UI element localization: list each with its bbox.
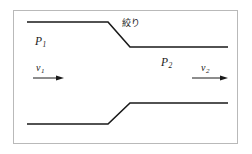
velocity-label-downstream-subscript: 2 — [206, 67, 210, 75]
pressure-label-downstream-subscript: 2 — [169, 61, 173, 70]
figure-root: P1 P2 v1 v2 絞り — [0, 0, 252, 154]
lower-pipe-wall — [27, 103, 228, 124]
pressure-label-upstream: P1 — [35, 36, 46, 48]
pressure-label-downstream: P2 — [161, 57, 172, 69]
throttle-label: 絞り — [122, 19, 140, 28]
pressure-label-upstream-subscript: 1 — [43, 40, 47, 49]
upstream-flow-arrow — [33, 76, 64, 81]
pressure-label-downstream-symbol: P — [161, 56, 168, 68]
velocity-label-downstream: v2 — [201, 63, 209, 73]
downstream-flow-arrow-head — [220, 76, 228, 81]
velocity-label-upstream-symbol: v — [36, 62, 40, 73]
velocity-label-upstream: v1 — [36, 63, 44, 73]
pressure-label-upstream-symbol: P — [35, 35, 42, 47]
upstream-flow-arrow-head — [56, 76, 64, 81]
velocity-label-upstream-subscript: 1 — [41, 67, 45, 75]
velocity-label-downstream-symbol: v — [201, 62, 205, 73]
downstream-flow-arrow — [192, 76, 228, 81]
